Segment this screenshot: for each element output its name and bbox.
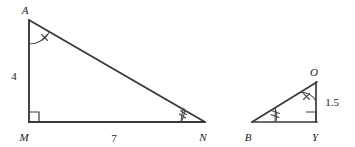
large-triangle: A M N 4 7 xyxy=(11,4,207,144)
side-bo xyxy=(252,82,317,122)
small-triangle: O B Y 1.5 xyxy=(245,66,340,143)
length-label-mn: 7 xyxy=(111,132,117,144)
vertex-label-o: O xyxy=(310,66,318,78)
vertex-label-b: B xyxy=(245,131,252,143)
geometry-canvas: A M N 4 7 xyxy=(0,0,355,147)
vertex-label-n: N xyxy=(198,131,207,143)
length-label-oy: 1.5 xyxy=(325,96,339,108)
angle-mark-a xyxy=(29,32,50,44)
vertex-label-y: Y xyxy=(312,131,320,143)
length-label-am: 4 xyxy=(11,70,17,82)
geometry-figure: A M N 4 7 xyxy=(0,0,355,147)
right-angle-mark-m xyxy=(29,112,39,122)
side-an xyxy=(29,20,205,122)
vertex-label-a: A xyxy=(21,4,29,16)
angle-mark-o xyxy=(301,92,317,101)
right-angle-mark-y xyxy=(306,112,316,122)
vertex-label-m: M xyxy=(18,131,29,143)
